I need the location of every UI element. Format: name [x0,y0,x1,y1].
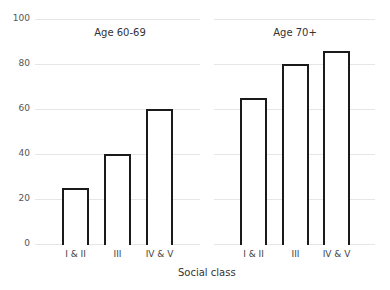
bar [240,98,267,245]
x-tick-label: IV & V [317,249,357,259]
y-tick-label: 40 [0,148,30,158]
gridline [35,109,200,110]
y-tick-label: 60 [0,103,30,113]
panel-title-left: Age 60-69 [60,27,180,38]
panel-title-right: Age 70+ [235,27,355,38]
bar [104,154,131,245]
bar [282,64,309,245]
x-axis-label: Social class [178,267,236,278]
x-tick-label: IV & V [140,249,180,259]
x-tick-label: I & II [56,249,96,259]
y-tick-label: 100 [0,13,30,23]
y-tick-label: 80 [0,58,30,68]
x-tick-label: I & II [234,249,274,259]
y-tick-label: 0 [0,238,30,248]
gridline [35,19,200,20]
x-tick-label: III [98,249,138,259]
bar [323,51,350,245]
gridline [35,64,200,65]
bar [62,188,89,245]
x-tick-label: III [276,249,316,259]
y-tick-label: 20 [0,193,30,203]
bar [146,109,173,245]
gridline [214,19,375,20]
